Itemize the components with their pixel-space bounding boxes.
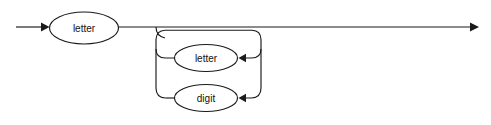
loop-digit-ellipse[interactable] [175,85,238,112]
loop-right-rail [243,30,261,98]
loop-left-top-corner [156,27,165,38]
railroad-diagram: letter [0,0,491,125]
loop-letter-ellipse[interactable] [175,45,238,72]
first-letter-ellipse[interactable] [50,12,119,44]
entry-arrow-head [41,23,50,32]
exit-arrow-head [470,23,479,32]
loop-letter-arrow-head [239,54,247,62]
node-loop-letter[interactable]: letter [175,45,238,72]
loop-left-branch-letter [156,49,175,58]
loop-left-rail [156,30,166,98]
entry-arrow [16,23,50,32]
node-loop-digit[interactable]: digit [175,85,238,112]
node-first-letter[interactable]: letter [50,12,119,44]
loop-digit-arrow-head [239,94,247,102]
syntax-diagram-canvas: letter [0,0,491,125]
